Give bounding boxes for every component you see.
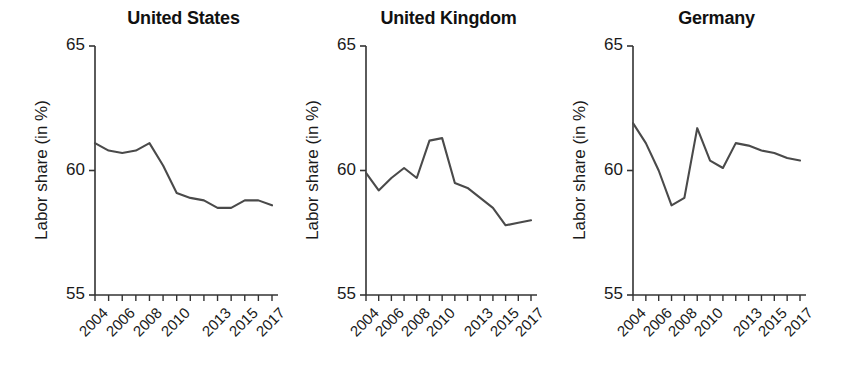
plot-area bbox=[536, 0, 841, 368]
data-line bbox=[95, 143, 272, 208]
figure-canvas: United StatesLabor share (in %)656055200… bbox=[0, 0, 841, 368]
chart-panel-2: United KingdomLabor share (in %)65605520… bbox=[270, 0, 536, 368]
plot-area bbox=[270, 0, 536, 368]
plot-area bbox=[0, 0, 272, 368]
chart-panel-1: United StatesLabor share (in %)656055200… bbox=[0, 0, 272, 368]
data-line bbox=[366, 138, 531, 225]
data-line bbox=[633, 123, 800, 205]
chart-panel-3: GermanyLabor share (in %)656055200420062… bbox=[536, 0, 841, 368]
